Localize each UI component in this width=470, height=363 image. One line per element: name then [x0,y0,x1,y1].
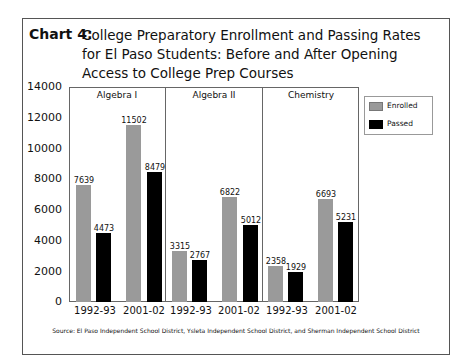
bar-passed [96,233,111,302]
bar-enrolled [222,197,237,302]
chart-title: College Preparatory Enrollment and Passi… [82,26,422,83]
value-label: 5012 [236,216,266,225]
legend-swatch-passed [369,120,383,129]
bar-enrolled [126,125,141,302]
y-tick: 6000 [20,203,62,216]
x-tick: 2001-02 [119,305,169,316]
value-label: 4473 [89,224,119,233]
value-label: 8479 [140,163,170,172]
panel-title-algebra-1: Algebra I [69,90,165,100]
x-tick: 1992-93 [262,305,312,316]
panel-divider [262,87,263,302]
y-tick: 4000 [20,234,62,247]
y-tick: 0 [20,295,62,308]
bar-passed [338,222,353,302]
x-tick: 1992-93 [166,305,216,316]
source-note: Source: El Paso Independent School Distr… [22,327,450,334]
x-tick: 2001-02 [214,305,264,316]
legend-label-enrolled: Enrolled [387,101,418,110]
panel-divider [165,87,166,302]
value-label: 6822 [215,188,245,197]
value-label: 5231 [331,213,361,222]
panel-title-algebra-2: Algebra II [166,90,262,100]
bar-passed [192,260,207,302]
bar-passed [243,225,258,302]
legend: Enrolled Passed [364,96,433,135]
x-tick: 2001-02 [311,305,361,316]
legend-label-passed: Passed [387,119,413,128]
x-tick: 1992-93 [70,305,120,316]
value-label: 7639 [69,176,99,185]
y-tick: 12000 [20,111,62,124]
legend-swatch-enrolled [369,102,383,111]
value-label: 11502 [119,116,149,125]
y-tick: 2000 [20,265,62,278]
value-label: 2767 [185,251,215,260]
value-label: 3315 [165,242,195,251]
panel-title-chemistry: Chemistry [263,90,359,100]
value-label: 6693 [311,190,341,199]
y-tick: 14000 [20,80,62,93]
y-tick: 10000 [20,142,62,155]
bar-enrolled [76,185,91,302]
bar-passed [147,172,162,302]
value-label: 1929 [281,263,311,272]
y-tick: 8000 [20,172,62,185]
bar-passed [288,272,303,302]
